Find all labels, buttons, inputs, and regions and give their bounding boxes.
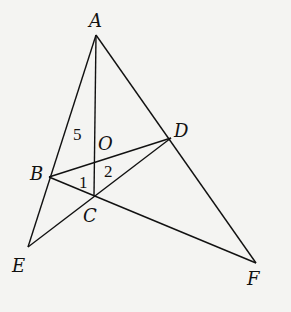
- segment-AC: [94, 35, 96, 195]
- point-label-C: C: [83, 205, 97, 226]
- geometry-diagram: ABCDEFO 512: [0, 0, 291, 312]
- point-label-F: F: [246, 268, 261, 289]
- angle-label-1: 1: [79, 173, 88, 192]
- point-label-O: O: [98, 133, 113, 154]
- line-segments: [28, 35, 256, 263]
- segment-ED: [28, 138, 171, 247]
- angle-label-2: 2: [104, 162, 113, 181]
- point-label-D: D: [173, 120, 189, 141]
- point-label-B: B: [29, 163, 43, 184]
- angle-label-5: 5: [73, 125, 82, 144]
- segment-AF: [96, 35, 256, 263]
- point-label-E: E: [11, 255, 25, 276]
- point-label-A: A: [87, 10, 102, 31]
